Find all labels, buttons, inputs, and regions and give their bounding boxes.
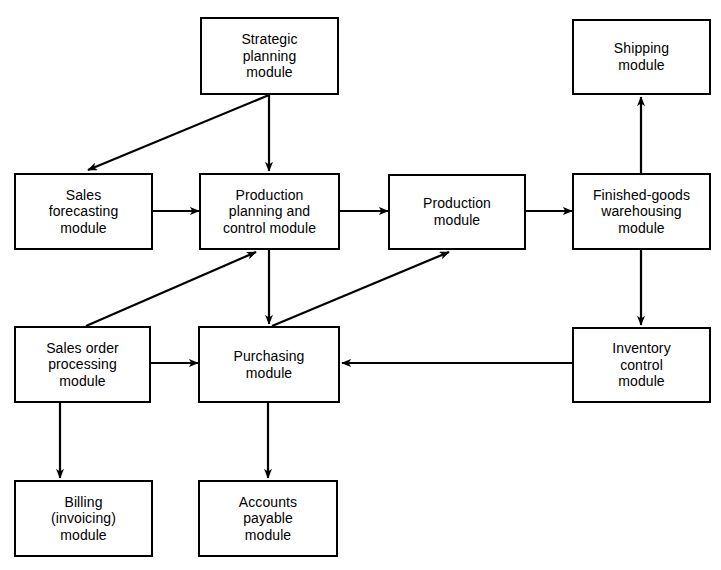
node-label-line: Production xyxy=(236,187,304,204)
node-label-line: module xyxy=(59,373,106,390)
node-purchasing[interactable]: Purchasing module xyxy=(198,326,340,403)
node-label-line: module xyxy=(60,527,107,544)
node-finished-goods-warehousing[interactable]: Finished-goods warehousing module xyxy=(572,173,711,250)
node-shipping[interactable]: Shipping module xyxy=(572,19,711,95)
node-production[interactable]: Production module xyxy=(388,174,526,250)
node-label-line: Accounts xyxy=(239,494,297,511)
node-inventory-control[interactable]: Inventory control module xyxy=(572,327,711,403)
node-sales-forecasting[interactable]: Sales forecasting module xyxy=(14,173,153,250)
node-label-line: planning and xyxy=(229,203,310,220)
node-label-line: control xyxy=(620,357,663,374)
node-label-line: module xyxy=(618,57,665,74)
node-label-line: Finished-goods xyxy=(593,187,690,204)
node-label-line: module xyxy=(245,527,292,544)
node-billing-invoicing[interactable]: Billing (invoicing) module xyxy=(14,480,153,557)
node-label-line: control module xyxy=(223,220,316,237)
edge-strategic-to-sales-forecasting xyxy=(88,95,269,170)
node-label-line: module xyxy=(618,373,665,390)
node-label-line: Strategic xyxy=(241,31,297,48)
node-label-line: Billing xyxy=(64,494,102,511)
node-sales-order-processing[interactable]: Sales order processing module xyxy=(14,326,151,403)
node-label-line: Production xyxy=(423,195,491,212)
node-label-line: Sales order xyxy=(46,340,119,357)
node-label-line: forecasting xyxy=(49,203,119,220)
node-accounts-payable[interactable]: Accounts payable module xyxy=(198,480,338,557)
node-label-line: Shipping xyxy=(614,40,669,57)
node-label-line: module xyxy=(618,220,665,237)
node-label-line: module xyxy=(60,220,107,237)
node-label-line: Sales xyxy=(66,187,102,204)
node-label-line: module xyxy=(246,64,293,81)
node-label-line: planning xyxy=(243,48,297,65)
node-label-line: Inventory xyxy=(612,340,671,357)
edge-purchasing-to-production xyxy=(272,252,449,326)
node-label-line: module xyxy=(246,365,293,382)
node-label-line: Purchasing xyxy=(233,348,304,365)
diagram-canvas: Strategic planning module Shipping modul… xyxy=(0,0,721,570)
node-label-line: (invoicing) xyxy=(51,510,116,527)
node-production-planning-and-control[interactable]: Production planning and control module xyxy=(199,173,340,250)
node-label-line: processing xyxy=(48,356,117,373)
node-strategic-planning[interactable]: Strategic planning module xyxy=(200,17,339,95)
edge-sales-order-to-production-planning xyxy=(86,252,256,326)
node-label-line: module xyxy=(434,212,481,229)
node-label-line: warehousing xyxy=(601,203,682,220)
node-label-line: payable xyxy=(243,510,293,527)
